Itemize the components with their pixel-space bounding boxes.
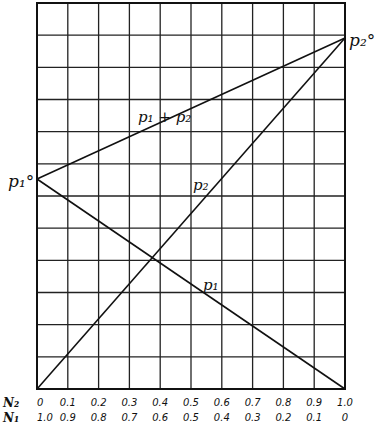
tick-label: 1.0 [37, 412, 53, 423]
tick-label: 0 [37, 397, 43, 408]
tick-label: 0.5 [183, 412, 199, 423]
tick-label: 0.7 [121, 412, 138, 423]
grid [37, 3, 345, 389]
tick-label: 0.2 [91, 397, 107, 408]
p2-line-label: p₂ [193, 176, 209, 194]
tick-label: 0.4 [152, 397, 168, 408]
tick-label: 0.1 [60, 397, 76, 408]
tick-label: 0.3 [121, 397, 137, 408]
p1-line-label: p₁ [203, 276, 219, 294]
n1-axis-name: N₁ [2, 411, 19, 425]
tick-label: 0.8 [91, 412, 107, 423]
total-line-label: p₁ + p₂ [138, 108, 191, 126]
tick-label: 0.2 [275, 412, 291, 423]
n2-tick-labels: 00.10.20.30.40.50.60.70.80.91.0 [37, 397, 353, 408]
n2-axis-name: N₂ [2, 396, 19, 410]
tick-label: 0.8 [275, 397, 291, 408]
tick-label: 0.9 [306, 397, 322, 408]
p2-pure-label: p₂° [349, 30, 375, 50]
tick-label: 0 [342, 412, 348, 423]
tick-label: 0.1 [306, 412, 322, 423]
tick-label: 0.3 [245, 412, 261, 423]
tick-label: 0.6 [152, 412, 168, 423]
tick-label: 0.5 [183, 397, 199, 408]
tick-label: 0.7 [245, 397, 262, 408]
n1-tick-labels: 1.00.90.80.70.60.50.40.30.20.10 [37, 412, 348, 423]
p1-pure-label: p₁° [8, 171, 34, 191]
tick-label: 1.0 [337, 397, 353, 408]
tick-label: 0.4 [214, 412, 230, 423]
tick-label: 0.6 [214, 397, 230, 408]
vapor-pressure-diagram: p₁° p₂° p₁ + p₂ p₂ p₁ N₂ N₁ 00.10.20.30.… [0, 0, 380, 427]
tick-label: 0.9 [60, 412, 76, 423]
